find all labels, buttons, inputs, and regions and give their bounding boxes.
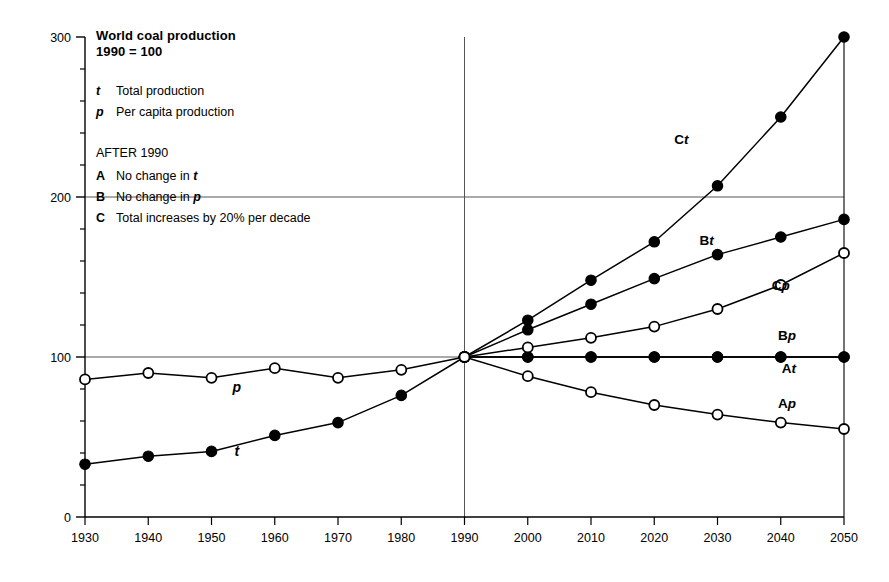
chart-title-line2: 1990 = 100 [96, 44, 416, 60]
data-point-Bt [523, 325, 533, 335]
legend-key-p: p [96, 105, 116, 120]
data-point-Cp [839, 248, 849, 258]
x-tick-label: 2020 [640, 531, 668, 545]
curve-label-Bp: Bp [778, 328, 796, 343]
y-tick-label: 200 [50, 191, 71, 205]
curve-label-suffix: t [792, 361, 797, 376]
data-point-t [396, 390, 406, 400]
curve-label-suffix: t [709, 233, 714, 248]
x-tick-label: 2040 [767, 531, 795, 545]
data-point-Ct [649, 237, 659, 247]
legend-key-a: A [96, 169, 116, 184]
data-point-Cp [523, 342, 533, 352]
data-point-Bp [712, 352, 722, 362]
x-tick-label: 1970 [324, 531, 352, 545]
curve-label-Cp: Cp [772, 278, 790, 293]
legend-label-b: No change in p [116, 190, 201, 205]
legend-item-scenario-a: A No change in t [96, 169, 416, 184]
data-point-t [143, 451, 153, 461]
x-tick-label: 1980 [387, 531, 415, 545]
legend-label-t: Total production [116, 84, 204, 99]
data-point-Cp [460, 352, 470, 362]
legend-item-scenario-c: C Total increases by 20% per decade [96, 211, 416, 226]
legend-key-t: t [96, 84, 116, 99]
x-tick-label: 1960 [261, 531, 289, 545]
legend-item-t: t Total production [96, 84, 416, 99]
curve-label-suffix: p [787, 328, 796, 343]
x-tick-label: 2050 [830, 531, 858, 545]
curve-label-suffix: p [787, 396, 796, 411]
data-point-Cp [713, 304, 723, 314]
data-point-Ap [713, 410, 723, 420]
legend-key-c: C [96, 211, 116, 226]
curve-label-prefix: C [674, 132, 684, 147]
data-point-Bt [776, 232, 786, 242]
legend-block: World coal production 1990 = 100 t Total… [96, 28, 416, 226]
data-point-Bt [586, 299, 596, 309]
legend-label-a-pre: No change in [116, 169, 193, 183]
legend-label-c: Total increases by 20% per decade [116, 211, 311, 226]
legend-label-b-em: p [193, 190, 201, 204]
curve-label-prefix: A [782, 361, 792, 376]
curve-label-prefix: B [700, 233, 710, 248]
y-tick-label: 0 [64, 511, 71, 525]
data-point-Ap [776, 418, 786, 428]
legend-label-b-pre: No change in [116, 190, 193, 204]
chart-title-line1: World coal production [96, 28, 416, 44]
curve-label-prefix: C [772, 278, 782, 293]
data-point-Bp [523, 352, 533, 362]
data-point-t [206, 446, 216, 456]
legend-label-a: No change in t [116, 169, 197, 184]
after-1990-label: AFTER 1990 [96, 146, 416, 161]
data-point-Ap [839, 424, 849, 434]
data-point-t [80, 459, 90, 469]
data-point-Cp [586, 333, 596, 343]
legend-key-b: B [96, 190, 116, 205]
data-point-p [396, 365, 406, 375]
inline-label-historical_p: p [232, 379, 242, 395]
y-tick-label: 100 [50, 351, 71, 365]
curve-label-prefix: A [778, 396, 788, 411]
data-point-Bp [586, 352, 596, 362]
y-tick-label: 300 [50, 31, 71, 45]
data-point-Ct [523, 315, 533, 325]
x-tick-label: 2010 [577, 531, 605, 545]
data-point-p [80, 374, 90, 384]
data-point-Ap [649, 400, 659, 410]
data-point-Ct [839, 32, 849, 42]
legend-item-p: p Per capita production [96, 105, 416, 120]
chart-figure: 0100200300193019401950196019701980199020… [0, 0, 889, 582]
data-point-Ct [712, 181, 722, 191]
curve-label-At: At [782, 361, 797, 376]
data-point-Bt [712, 249, 722, 259]
curve-label-Ap: Ap [778, 396, 796, 411]
x-tick-label: 2030 [704, 531, 732, 545]
legend-item-scenario-b: B No change in p [96, 190, 416, 205]
legend-label-a-em: t [193, 169, 197, 183]
data-point-Ct [776, 112, 786, 122]
x-tick-label: 1940 [134, 531, 162, 545]
x-tick-label: 1950 [198, 531, 226, 545]
data-point-Cp [649, 322, 659, 332]
x-tick-label: 1930 [71, 531, 99, 545]
data-point-Bt [839, 214, 849, 224]
data-point-Bt [649, 273, 659, 283]
curve-label-Ct: Ct [674, 132, 689, 147]
curve-label-suffix: t [684, 132, 689, 147]
curve-label-Bt: Bt [700, 233, 715, 248]
data-point-t [270, 430, 280, 440]
data-point-t [333, 417, 343, 427]
data-point-p [333, 373, 343, 383]
data-point-Ap [586, 387, 596, 397]
data-point-Ct [586, 275, 596, 285]
data-point-Bp [649, 352, 659, 362]
curve-label-prefix: B [778, 328, 788, 343]
data-point-p [270, 363, 280, 373]
x-tick-label: 2000 [514, 531, 542, 545]
data-point-Bp [839, 352, 849, 362]
data-point-p [207, 373, 217, 383]
data-point-p [143, 368, 153, 378]
curve-label-suffix: p [780, 278, 789, 293]
data-point-Ap [523, 371, 533, 381]
legend-label-p: Per capita production [116, 105, 234, 120]
